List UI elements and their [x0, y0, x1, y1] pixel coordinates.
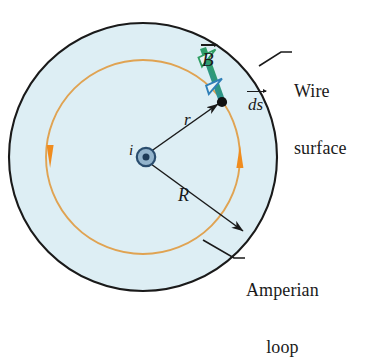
current-symbol-dot — [143, 154, 150, 161]
wire-surface-label: Wire surface — [294, 44, 347, 197]
current-label: i — [129, 143, 133, 159]
radius-r-label: r — [184, 111, 191, 129]
b-field-label: B — [183, 30, 214, 90]
wire-surface-label-line2: surface — [294, 139, 347, 158]
ds-label: ds — [231, 78, 263, 132]
b-field-label-text: B — [202, 49, 214, 70]
vector-arrow-icon — [201, 44, 217, 45]
wire-surface-leader — [259, 52, 292, 66]
wire-surface-label-line1: Wire — [294, 82, 347, 101]
amperian-loop-label: Amperian loop — [246, 243, 319, 361]
amperian-loop-label-line1: Amperian — [246, 281, 319, 300]
amperian-loop-label-line2: loop — [246, 338, 319, 357]
ds-label-text: ds — [248, 95, 263, 114]
loop-point-marker — [217, 97, 227, 107]
radius-R-label: R — [178, 186, 189, 205]
vector-arrow-icon — [247, 91, 266, 92]
